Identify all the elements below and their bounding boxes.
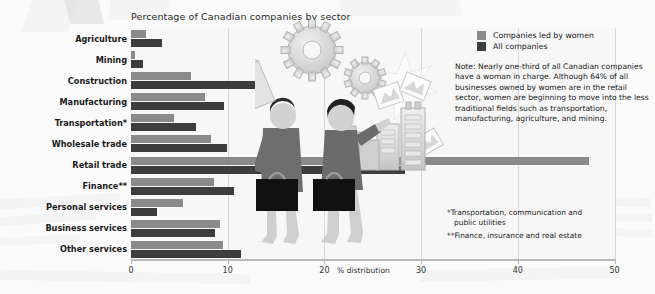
category-label: Retail trade	[5, 160, 127, 170]
category-label: Business services	[5, 223, 127, 233]
bar-women	[131, 220, 220, 228]
legend-label-all: All companies	[493, 42, 548, 51]
category-label: Agriculture	[5, 34, 127, 44]
category-label: Other services	[5, 244, 127, 254]
bar-women	[131, 178, 214, 186]
x-tick-label: 30	[416, 266, 426, 275]
bar-women	[131, 241, 223, 249]
x-axis-title: % distribution	[337, 266, 390, 275]
x-tick-label: 50	[609, 266, 619, 275]
bar-all	[131, 250, 241, 258]
bar-all	[131, 123, 196, 131]
category-label: Mining	[5, 55, 127, 65]
bar-all	[131, 81, 260, 89]
bar-women	[131, 114, 174, 122]
x-tick	[615, 259, 616, 264]
bar-all	[131, 39, 162, 47]
x-tick	[131, 259, 132, 264]
bar-all	[131, 187, 234, 195]
category-label: Construction	[5, 76, 127, 86]
x-tick-label: 40	[513, 266, 523, 275]
bar-group	[131, 135, 615, 156]
bar-group	[131, 178, 615, 199]
legend-swatch-all	[477, 42, 486, 51]
bar-all	[131, 60, 143, 68]
bar-women	[131, 135, 211, 143]
legend-label-women: Companies led by women	[493, 31, 594, 40]
footnotes: *Transportation, communication and publi…	[447, 208, 652, 241]
bar-group	[131, 157, 615, 178]
category-label: Personal services	[5, 202, 127, 212]
note-text: Note: Nearly one-third of all Canadian c…	[455, 62, 653, 124]
bar-all	[131, 229, 215, 237]
bar-women	[131, 51, 135, 59]
footnote-transportation-line1: *Transportation, communication and	[447, 208, 582, 217]
bar-women	[131, 30, 146, 38]
bar-women	[131, 93, 205, 101]
x-tick-label: 20	[319, 266, 329, 275]
background-shard	[0, 270, 250, 284]
category-label: Transportation*	[5, 118, 127, 128]
x-tick	[228, 259, 229, 264]
bar-all	[131, 166, 405, 174]
footnote-transportation: *Transportation, communication and publi…	[447, 208, 652, 228]
bar-all	[131, 144, 227, 152]
category-label: Manufacturing	[5, 97, 127, 107]
category-axis-labels: AgricultureMiningConstructionManufacturi…	[0, 28, 127, 260]
chart-title: Percentage of Canadian companies by sect…	[131, 11, 350, 22]
category-label: Finance**	[5, 181, 127, 191]
bar-all	[131, 208, 157, 216]
bar-women	[131, 199, 183, 207]
bar-women	[131, 72, 191, 80]
footnote-finance: **Finance, insurance and real estate	[447, 231, 652, 241]
x-tick-label: 0	[128, 266, 133, 275]
bar-women	[131, 157, 589, 165]
category-label: Wholesale trade	[5, 139, 127, 149]
legend-swatch-women	[477, 31, 486, 40]
infographic-chart: Percentage of Canadian companies by sect…	[0, 0, 655, 294]
x-tick	[324, 259, 325, 264]
x-axis-line	[131, 259, 616, 261]
bar-all	[131, 102, 224, 110]
footnote-transportation-line2: public utilities	[447, 218, 652, 228]
x-tick	[421, 259, 422, 264]
background-shard	[338, 0, 463, 16]
x-tick-label: 10	[223, 266, 233, 275]
x-tick	[518, 259, 519, 264]
